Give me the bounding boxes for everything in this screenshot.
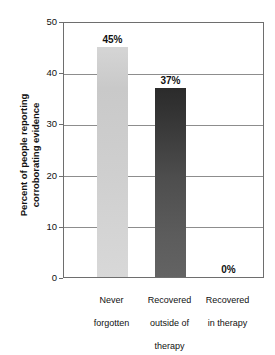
y-tick-label-50: 50 (31, 17, 57, 27)
x-label-recovered-in-therapy-line-1: Recovered (185, 295, 270, 307)
x-label-recovered-outside-of-therapy-line-3: therapy (127, 341, 212, 353)
plot-area: 45% 37% 0% (63, 22, 264, 278)
x-label-recovered-in-therapy: Recovered in therapy (185, 283, 270, 341)
value-label-recovered-in-therapy: 0% (203, 264, 254, 275)
x-label-recovered-in-therapy-line-2: in therapy (185, 318, 270, 330)
y-tick-label-40: 40 (31, 68, 57, 78)
value-label-never-forgotten: 45% (87, 34, 138, 45)
x-axis-category-labels: Never forgotten Recovered outside of the… (63, 283, 264, 339)
y-axis-title-line-1: Percent of people reporting (18, 94, 30, 217)
y-axis-tick-labels: 50 40 30 20 10 0 (31, 0, 57, 344)
y-tick-label-30: 30 (31, 119, 57, 129)
y-tick-label-0: 0 (31, 273, 57, 283)
bar-never-forgotten[interactable] (97, 47, 128, 277)
y-tick-label-10: 10 (31, 222, 57, 232)
y-tick-mark-0 (59, 278, 63, 279)
y-tick-label-20: 20 (31, 171, 57, 181)
bar-recovered-outside-of-therapy[interactable] (155, 88, 186, 277)
value-label-recovered-outside-of-therapy: 37% (145, 75, 196, 86)
